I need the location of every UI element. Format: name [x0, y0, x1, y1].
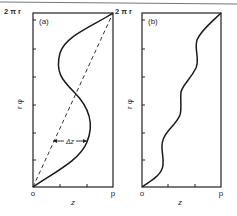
panel-b: (b) 2 π r r φ o p z — [115, 7, 224, 207]
panel-b-x-origin-label: o — [140, 189, 145, 198]
panel-a-y-axis-label: r φ — [15, 99, 24, 109]
panel-b-y-top-label: 2 π r — [115, 7, 132, 16]
panel-a-label: (a) — [39, 17, 49, 26]
panel-b-x-axis-label: z — [177, 198, 182, 207]
figure: Δz (a) 2 π r r φ o p z (b) 2 π r r φ o p… — [0, 0, 237, 216]
panel-a-y-top-label: 2 π r — [4, 7, 21, 16]
panel-a-x-axis-label: z — [70, 198, 75, 207]
panel-b-curve — [142, 13, 221, 187]
panel-a-x-end-label: p — [111, 189, 116, 198]
panel-a-delta-z-marker: Δz — [53, 138, 87, 145]
top-rule — [0, 2, 237, 4]
panel-a-delta-z-label: Δz — [65, 138, 75, 145]
panel-b-x-end-label: p — [219, 189, 224, 198]
panel-b-y-axis-label: r φ — [125, 99, 134, 109]
panel-a-x-origin-label: o — [31, 189, 36, 198]
panel-b-label: (b) — [148, 17, 158, 26]
panel-a: Δz (a) 2 π r r φ o p z — [4, 7, 116, 207]
panel-a-dashed-line — [33, 13, 113, 187]
